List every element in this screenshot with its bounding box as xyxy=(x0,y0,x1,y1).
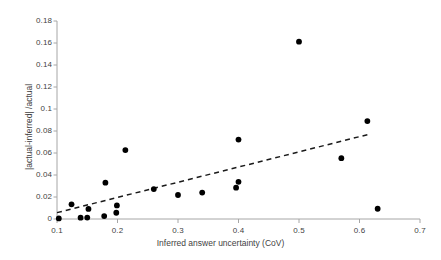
data-points xyxy=(56,39,381,222)
y-tick-label: 0.04 xyxy=(20,170,52,179)
x-tick-label: 0.3 xyxy=(163,226,193,235)
plot-area xyxy=(0,0,441,260)
data-point xyxy=(103,180,109,186)
data-point xyxy=(296,39,302,45)
data-point xyxy=(375,206,381,212)
data-point xyxy=(364,118,370,124)
x-tick-label: 0.1 xyxy=(42,226,72,235)
data-point xyxy=(236,179,242,185)
data-point xyxy=(84,215,90,221)
x-tick-label: 0.4 xyxy=(224,226,254,235)
data-point xyxy=(86,206,92,212)
data-point xyxy=(113,210,119,216)
y-tick-label: 0 xyxy=(20,214,52,223)
data-point xyxy=(114,203,120,209)
data-point xyxy=(69,201,75,207)
data-point xyxy=(233,185,239,191)
x-tick-label: 0.5 xyxy=(284,226,314,235)
data-point xyxy=(56,216,62,222)
data-point xyxy=(175,192,181,198)
x-tick-label: 0.7 xyxy=(405,226,435,235)
y-tick-label: 0.14 xyxy=(20,60,52,69)
data-point xyxy=(199,190,205,196)
x-axis-title: Inferred answer uncertainty (CoV) xyxy=(0,238,441,248)
x-tick-label: 0.6 xyxy=(345,226,375,235)
data-point xyxy=(101,213,107,219)
data-point xyxy=(78,215,84,221)
y-axis-title: |actual-inferred| /actual xyxy=(24,84,34,170)
trendline xyxy=(57,134,370,213)
data-point xyxy=(338,155,344,161)
y-tick-label: 0.16 xyxy=(20,38,52,47)
scatter-chart: 00.020.040.060.080.10.120.140.160.18 0.1… xyxy=(0,0,441,260)
data-point xyxy=(236,137,242,143)
x-tick-label: 0.2 xyxy=(103,226,133,235)
data-point xyxy=(151,186,157,192)
data-point xyxy=(122,147,128,153)
y-tick-label: 0.02 xyxy=(20,192,52,201)
y-tick-label: 0.18 xyxy=(20,16,52,25)
